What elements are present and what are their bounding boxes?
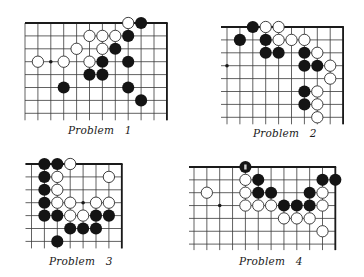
black-stone [291,200,303,212]
white-stone [253,200,264,211]
white-stone [240,200,251,211]
black-stone [252,187,264,199]
white-stone [291,213,302,224]
white-stone [304,213,315,224]
white-stone [240,187,251,198]
white-stone [201,187,212,198]
problem-caption: Problem 4 [239,255,303,267]
black-stone [252,174,264,186]
white-stone [317,200,328,211]
black-stone [265,187,277,199]
white-stone [240,174,251,185]
black-stone [329,174,341,186]
hoshi-point [218,204,222,208]
black-stone [304,200,316,212]
go-board-diagram [0,0,364,277]
white-stone [265,200,276,211]
stone-marker [244,165,246,170]
white-stone [317,187,328,198]
white-stone [278,213,289,224]
black-stone [304,187,316,199]
black-stone [316,174,328,186]
black-stone [278,200,290,212]
white-stone [317,226,328,237]
